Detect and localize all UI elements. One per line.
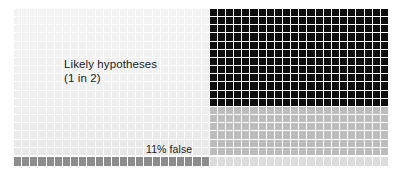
cell-false-sig (226, 115, 233, 122)
cell-false-sig (348, 148, 355, 155)
cell-false-sig (381, 140, 388, 147)
cell-true-nonsig (55, 82, 62, 89)
cell-true-sig (316, 50, 323, 57)
cell-true-nonsig (71, 99, 78, 106)
cell-true-nonsig (120, 33, 127, 40)
cell-false-sig (299, 148, 306, 155)
cell-false-sig (340, 107, 347, 114)
cell-true-nonsig (177, 99, 184, 106)
cell-true-sig (283, 66, 290, 73)
cell-false-nonsig (144, 131, 151, 138)
cell-true-nonsig (185, 91, 192, 98)
cell-true-sig (242, 74, 249, 81)
cell-false-sig (324, 148, 331, 155)
cell-true-sig (226, 50, 233, 57)
cell-true-sig (259, 99, 266, 106)
cell-true-nonsig (177, 91, 184, 98)
cell-true-sig (348, 9, 355, 16)
cell-true-sig (340, 74, 347, 81)
cell-true-sig (291, 25, 298, 32)
cell-false-nonsig (169, 131, 176, 138)
strip-cell-empty (365, 157, 372, 166)
cell-false-nonsig (120, 115, 127, 122)
cell-true-sig (324, 17, 331, 24)
cell-true-nonsig (193, 33, 200, 40)
cell-false-sig (267, 131, 274, 138)
strip-cell-filled (136, 157, 143, 166)
cell-false-nonsig (87, 131, 94, 138)
cell-true-nonsig (161, 99, 168, 106)
cell-true-sig (267, 82, 274, 89)
cell-true-sig (267, 99, 274, 106)
cell-true-sig (283, 91, 290, 98)
cell-true-sig (250, 82, 257, 89)
cell-true-sig (275, 17, 282, 24)
cell-true-nonsig (128, 25, 135, 32)
cell-false-nonsig (161, 123, 168, 130)
figure-canvas: Likely hypotheses (1 in 2) 11% false (0, 0, 401, 173)
cell-true-nonsig (193, 25, 200, 32)
cell-true-sig (291, 50, 298, 57)
cell-false-sig (267, 107, 274, 114)
cell-true-sig (242, 91, 249, 98)
cell-false-sig (365, 123, 372, 130)
cell-true-sig (365, 25, 372, 32)
cell-false-nonsig (104, 140, 111, 147)
cell-true-sig (226, 9, 233, 16)
cell-false-nonsig (63, 148, 70, 155)
cell-true-sig (373, 99, 380, 106)
cell-true-nonsig (202, 17, 209, 24)
cell-true-sig (234, 50, 241, 57)
cell-false-sig (242, 123, 249, 130)
cell-true-sig (365, 99, 372, 106)
cell-false-sig (283, 115, 290, 122)
cell-true-nonsig (161, 91, 168, 98)
cell-false-sig (250, 131, 257, 138)
cell-false-sig (226, 123, 233, 130)
cell-false-sig (332, 107, 339, 114)
cell-true-sig (275, 91, 282, 98)
cell-false-sig (218, 140, 225, 147)
cell-false-nonsig (55, 148, 62, 155)
cell-true-nonsig (202, 42, 209, 49)
cell-true-nonsig (104, 99, 111, 106)
cell-true-sig (348, 50, 355, 57)
cell-false-sig (316, 123, 323, 130)
cell-false-sig (332, 115, 339, 122)
cell-false-sig (316, 107, 323, 114)
cell-true-sig (259, 25, 266, 32)
cell-true-sig (365, 33, 372, 40)
strip-cell-empty (316, 157, 323, 166)
cell-true-sig (234, 17, 241, 24)
cell-false-nonsig (96, 115, 103, 122)
cell-true-sig (307, 17, 314, 24)
cell-true-sig (324, 25, 331, 32)
cell-true-sig (332, 25, 339, 32)
cell-true-nonsig (169, 82, 176, 89)
cell-false-sig (348, 107, 355, 114)
cell-true-sig (307, 9, 314, 16)
cell-false-sig (316, 148, 323, 155)
cell-false-sig (291, 140, 298, 147)
strip-cell-filled (144, 157, 151, 166)
cell-false-nonsig (47, 148, 54, 155)
cell-false-sig (348, 123, 355, 130)
cell-false-nonsig (144, 107, 151, 114)
cell-false-sig (356, 131, 363, 138)
strip-cell-empty (283, 157, 290, 166)
cell-true-sig (316, 91, 323, 98)
cell-true-nonsig (38, 58, 45, 65)
cell-false-nonsig (55, 140, 62, 147)
cell-true-sig (348, 58, 355, 65)
cell-true-sig (299, 58, 306, 65)
cell-true-nonsig (153, 9, 160, 16)
strip-cell-filled (30, 157, 37, 166)
cell-true-nonsig (161, 33, 168, 40)
strip-cell-filled (128, 157, 135, 166)
cell-false-sig (381, 123, 388, 130)
cell-false-nonsig (185, 107, 192, 114)
cell-true-nonsig (63, 99, 70, 106)
cell-false-nonsig (87, 115, 94, 122)
cell-false-sig (340, 131, 347, 138)
cell-false-sig (210, 115, 217, 122)
